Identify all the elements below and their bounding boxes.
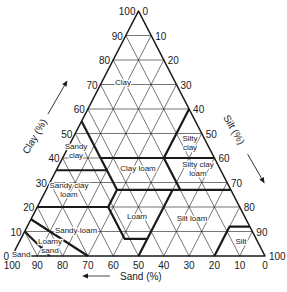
silt-tick-label: 100	[269, 251, 286, 262]
silt-tick-label: 80	[244, 202, 256, 213]
region-label-sandy-loam: Sandy loam	[55, 226, 98, 235]
region-label-clay: Clay	[115, 78, 131, 87]
sand-tick-label: 50	[133, 260, 145, 271]
clay-tick-label: 30	[36, 178, 48, 189]
sand-tick-label: 40	[158, 260, 170, 271]
boundary-clay-loam-sand45	[101, 158, 117, 190]
region-label-clay-loam: Clay loam	[120, 164, 156, 173]
silt-tick-label: 70	[231, 178, 243, 189]
silt-axis-label: Silt (%)	[221, 113, 247, 146]
region-label-sandy-clay-loam: Sandy clay	[49, 181, 88, 190]
clay-axis-label: Clay (%)	[20, 117, 49, 156]
clay-tick-label: 50	[61, 129, 73, 140]
silt-tick-label: 40	[193, 104, 205, 115]
clay-tick-label: 100	[119, 6, 136, 17]
sand-tick-label: 30	[184, 260, 196, 271]
silt-axis-arrow-icon	[248, 154, 262, 178]
region-label-sandy-clay: clay	[69, 151, 83, 160]
clay-tick-label: 80	[99, 55, 111, 66]
region-label-silt: Silt	[235, 237, 247, 246]
region-label-loamy-sand: Loamy	[38, 237, 62, 246]
arrow-head-icon	[62, 79, 69, 87]
clay-tick-label: 70	[86, 80, 98, 91]
silt-axis-title: Silt (%)	[221, 113, 270, 186]
clay-tick-label: 90	[112, 31, 124, 42]
silt-tick-label: 20	[168, 55, 180, 66]
boundary-silty-clay-loam-sand20	[164, 158, 180, 190]
region-label-silt-loam: Silt loam	[177, 214, 208, 223]
sand-tick-label: 80	[57, 260, 69, 271]
silt-tick-label: 60	[218, 153, 230, 164]
soil-texture-triangle: 0010010109020208030307040406050505060604…	[0, 0, 287, 292]
clay-tick-label: 10	[11, 227, 23, 238]
sand-axis-title: Sand (%)	[82, 271, 162, 282]
clay-tick-label: 60	[74, 104, 86, 115]
clay-axis-arrow-icon	[48, 86, 65, 115]
sand-tick-label: 0	[262, 260, 268, 271]
sand-axis-label: Sand (%)	[120, 271, 162, 282]
grid-lines	[25, 36, 253, 257]
arrow-head-icon	[82, 274, 88, 279]
sand-gridline	[75, 134, 138, 257]
silt-tick-label: 10	[155, 31, 167, 42]
arrow-head-icon	[259, 177, 266, 185]
sand-tick-label: 70	[82, 260, 94, 271]
silt-tick-label: 50	[206, 129, 218, 140]
silt-tick-label: 90	[256, 227, 268, 238]
silt-tick-label: 0	[143, 6, 149, 17]
region-label-sand: Sand	[12, 250, 31, 259]
clay-tick-label: 40	[48, 153, 60, 164]
region-label-loam: Loam	[127, 212, 147, 221]
region-label-silty-clay: clay	[183, 143, 197, 152]
region-label-silty-clay-loam: Silty clay	[182, 160, 214, 169]
region-label-silty-clay: Silty	[182, 134, 197, 143]
region-label-sandy-clay: Sandy	[65, 142, 88, 151]
sand-tick-label: 100	[4, 260, 21, 271]
sand-tick-label: 60	[108, 260, 120, 271]
silt-tick-label: 30	[180, 80, 192, 91]
region-label-loamy-sand: sand	[41, 246, 58, 255]
sand-tick-label: 10	[234, 260, 246, 271]
sand-tick-label: 20	[209, 260, 221, 271]
sand-tick-label: 90	[32, 260, 44, 271]
region-label-sandy-clay-loam: loam	[60, 190, 78, 199]
clay-tick-label: 20	[23, 202, 35, 213]
region-label-silty-clay-loam: loam	[189, 169, 207, 178]
texture-class-labels: ClaySandyclaySiltyclayClay loamSilty cla…	[12, 78, 248, 259]
